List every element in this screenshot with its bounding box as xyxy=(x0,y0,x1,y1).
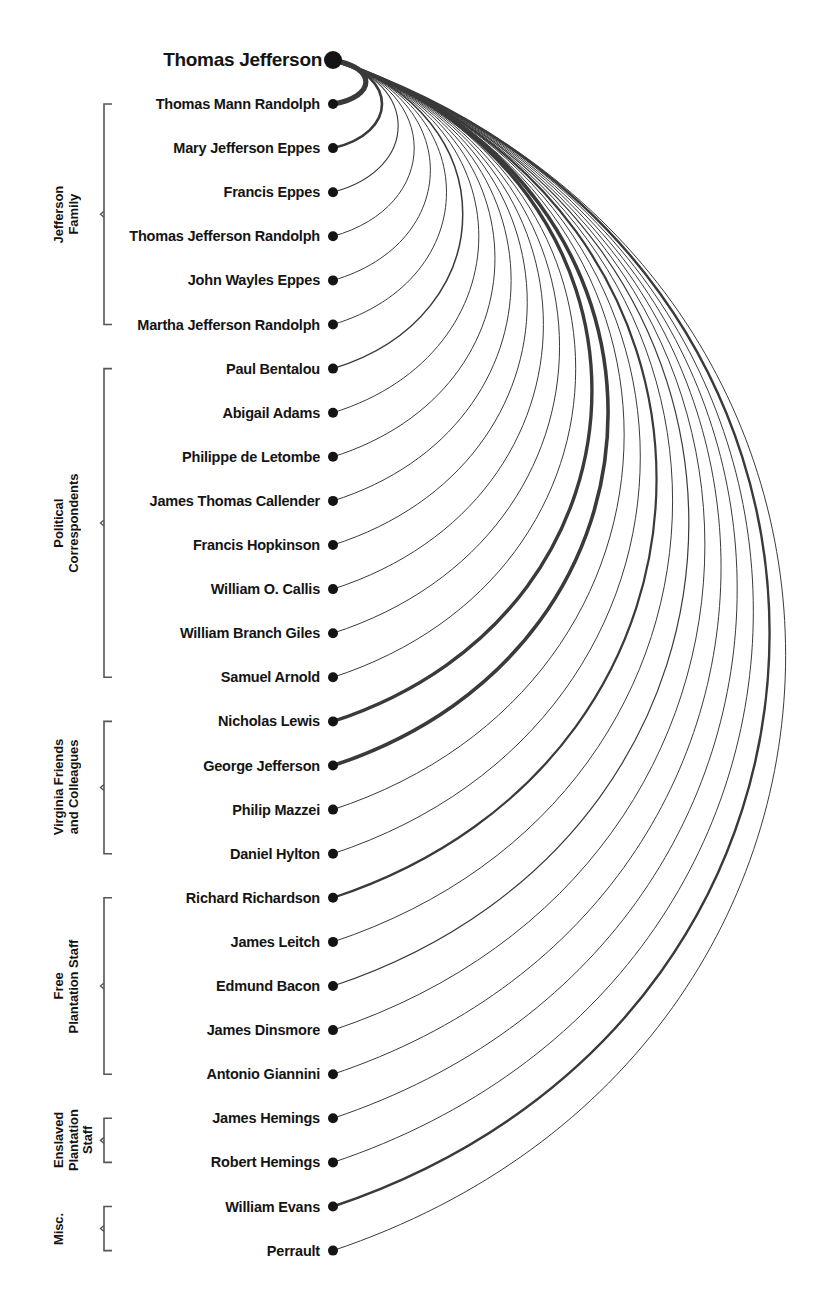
node-label[interactable]: Edmund Bacon xyxy=(216,978,320,994)
node-label[interactable]: Robert Hemings xyxy=(211,1154,320,1170)
arc-diagram-canvas: Thomas JeffersonThomas Mann RandolphMary… xyxy=(0,0,825,1300)
node-label[interactable]: Thomas Jefferson Randolph xyxy=(129,228,320,244)
group-label-line: Plantation Staff xyxy=(66,939,81,1033)
labels-layer: Thomas JeffersonThomas Mann RandolphMary… xyxy=(0,0,825,1300)
group-label-line: Staff xyxy=(80,1126,95,1154)
group-label-line: Virginia Friends xyxy=(51,739,66,835)
node-label[interactable]: James Dinsmore xyxy=(207,1022,320,1038)
node-label-root[interactable]: Thomas Jefferson xyxy=(163,49,322,71)
node-label[interactable]: James Leitch xyxy=(231,934,320,950)
group-label-jefferson-family: JeffersonFamily xyxy=(52,89,96,340)
node-label[interactable]: Daniel Hylton xyxy=(230,846,320,862)
node-label[interactable]: Francis Hopkinson xyxy=(193,537,320,553)
node-label[interactable]: Philippe de Letombe xyxy=(182,449,320,465)
node-label[interactable]: Francis Eppes xyxy=(223,184,320,200)
node-label[interactable]: William Evans xyxy=(225,1199,320,1215)
group-label-line: Family xyxy=(66,194,81,235)
group-label-enslaved-plantation-staff: EnslavedPlantationStaff xyxy=(52,1103,96,1177)
node-label[interactable]: James Thomas Callender xyxy=(150,493,320,509)
node-label[interactable]: Martha Jefferson Randolph xyxy=(137,317,320,333)
node-label[interactable]: Philip Mazzei xyxy=(232,802,320,818)
group-label-political-correspondents: PoliticalCorrespondents xyxy=(52,354,96,693)
group-label-line: Free xyxy=(51,972,66,999)
group-label-line: Jefferson xyxy=(51,185,66,243)
node-label[interactable]: Samuel Arnold xyxy=(221,669,320,685)
group-label-virginia-friends: Virginia Friendsand Colleagues xyxy=(52,706,96,868)
group-label-misc: Misc. xyxy=(52,1192,96,1266)
node-label[interactable]: James Hemings xyxy=(212,1110,320,1126)
node-label[interactable]: Mary Jefferson Eppes xyxy=(173,140,320,156)
node-label[interactable]: Thomas Mann Randolph xyxy=(156,96,320,112)
group-label-line: Correspondents xyxy=(66,473,81,572)
node-label[interactable]: William O. Callis xyxy=(211,581,320,597)
group-label-line: and Colleagues xyxy=(66,740,81,835)
group-label-line: Enslaved xyxy=(51,1112,66,1168)
node-label[interactable]: George Jefferson xyxy=(203,758,320,774)
node-label[interactable]: Nicholas Lewis xyxy=(218,713,320,729)
node-label[interactable]: Perrault xyxy=(267,1243,320,1259)
node-label[interactable]: John Wayles Eppes xyxy=(188,272,320,288)
node-label[interactable]: Antonio Giannini xyxy=(206,1066,320,1082)
node-label[interactable]: William Branch Giles xyxy=(180,625,320,641)
group-label-line: Plantation xyxy=(66,1109,81,1171)
node-label[interactable]: Paul Bentalou xyxy=(226,361,320,377)
node-label[interactable]: Abigail Adams xyxy=(222,405,320,421)
group-label-line: Misc. xyxy=(51,1213,66,1245)
group-label-line: Political xyxy=(51,498,66,547)
group-label-free-plantation-staff: FreePlantation Staff xyxy=(52,883,96,1089)
node-label[interactable]: Richard Richardson xyxy=(186,890,320,906)
